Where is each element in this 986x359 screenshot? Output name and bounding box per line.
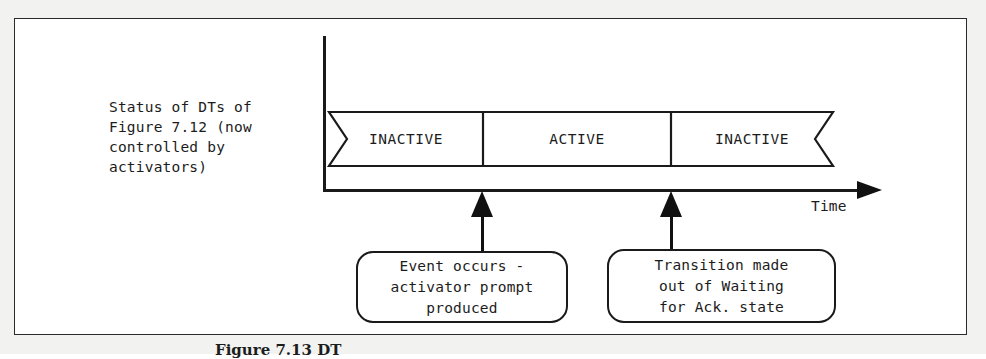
time-axis-label: Time — [811, 197, 847, 215]
pointer-stem — [481, 215, 484, 251]
callout-text: Transition made out of Waiting for Ack. … — [655, 255, 789, 318]
ribbon-segment: ACTIVE — [483, 112, 671, 166]
ribbon-segment-label: INACTIVE — [369, 131, 443, 147]
ribbon-segment: INACTIVE — [329, 112, 483, 166]
ribbon-segment-label: ACTIVE — [549, 131, 604, 147]
pointer-arrow-icon — [471, 191, 493, 217]
ribbon-segment-label: INACTIVE — [715, 131, 789, 147]
status-axis — [323, 36, 326, 192]
callout-transition-made: Transition made out of Waiting for Ack. … — [607, 249, 836, 323]
callout-event-occurs: Event occurs - activator prompt produced — [356, 251, 568, 323]
time-axis — [323, 189, 863, 192]
callout-text: Event occurs - activator prompt produced — [391, 256, 534, 319]
figure-frame: Status of DTs of Figure 7.12 (now contro… — [14, 18, 967, 335]
pointer-arrow-icon — [660, 191, 682, 217]
figure-caption: Figure 7.13 DT — [215, 341, 735, 359]
ribbon-segment: INACTIVE — [671, 112, 833, 166]
pointer-stem — [670, 215, 673, 249]
status-series-label: Status of DTs of Figure 7.12 (now contro… — [109, 97, 252, 177]
status-ribbon: INACTIVE ACTIVE INACTIVE — [329, 112, 833, 166]
time-axis-arrow-icon — [857, 181, 882, 199]
ribbon-segments: INACTIVE ACTIVE INACTIVE — [329, 112, 833, 166]
